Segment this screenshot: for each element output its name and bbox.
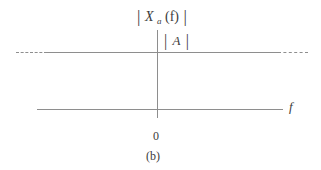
amplitude-left-modulus-bar: |	[162, 32, 169, 49]
spectrum-figure: | X a (f) | | A | f 0 (b)	[0, 0, 321, 170]
frequency-axis-line	[37, 109, 283, 110]
subfigure-caption: (b)	[146, 150, 160, 162]
amplitude-symbol: A	[172, 33, 180, 48]
origin-tick-label: 0	[153, 130, 159, 142]
spectrum-subscript: a	[157, 16, 162, 26]
x-axis-label: f	[289, 100, 293, 113]
amplitude-magnitude-label: | A |	[162, 33, 191, 49]
right-modulus-bar: |	[182, 7, 187, 26]
spectrum-symbol: X	[145, 9, 154, 24]
spectrum-magnitude-label: | X a (f) |	[136, 8, 188, 26]
amplitude-right-modulus-bar: |	[184, 32, 191, 49]
spectrum-level-dashed-left	[16, 52, 47, 53]
left-modulus-bar: |	[136, 7, 141, 26]
spectrum-argument: (f)	[165, 9, 179, 24]
magnitude-axis-line	[157, 30, 158, 118]
spectrum-level-dashed-right	[278, 52, 308, 53]
spectrum-level-line	[47, 52, 278, 53]
